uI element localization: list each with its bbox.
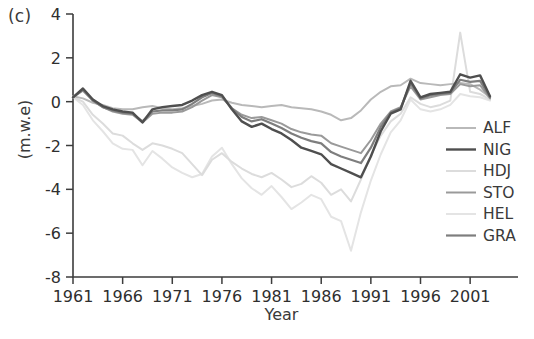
- x-tick-label: 1986: [301, 287, 342, 306]
- legend-label-gra: GRA: [483, 227, 516, 245]
- legend-label-hel: HEL: [483, 205, 513, 223]
- x-tick-label: 1976: [202, 287, 243, 306]
- line-chart: 420-2-4-6-819611966197119761981198619911…: [0, 0, 534, 339]
- figure-panel-c: (c) (m.w.e) Year 420-2-4-6-8196119661971…: [0, 0, 534, 339]
- x-tick-label: 1981: [251, 287, 292, 306]
- legend-label-hdj: HDJ: [483, 162, 511, 180]
- axes: 420-2-4-6-819611966197119761981198619911…: [45, 5, 518, 306]
- x-tick-label: 1991: [350, 287, 391, 306]
- y-tick-label: -4: [45, 180, 61, 199]
- x-tick-label: 2001: [450, 287, 491, 306]
- y-tick-label: 0: [51, 93, 61, 112]
- y-tick-label: -8: [45, 268, 61, 287]
- series-line-gra: [73, 80, 490, 163]
- y-tick-label: -6: [45, 224, 61, 243]
- legend: ALFNIGHDJSTOHELGRA: [446, 119, 516, 245]
- x-tick-label: 1961: [53, 287, 94, 306]
- x-tick-label: 1971: [152, 287, 193, 306]
- y-tick-label: -2: [45, 137, 61, 156]
- legend-label-alf: ALF: [483, 119, 511, 137]
- y-tick-label: 2: [51, 49, 61, 68]
- x-tick-label: 1996: [400, 287, 441, 306]
- series-line-nig: [73, 74, 490, 177]
- y-tick-label: 4: [51, 5, 61, 24]
- x-tick-label: 1966: [102, 287, 143, 306]
- legend-label-sto: STO: [483, 184, 515, 202]
- legend-label-nig: NIG: [483, 141, 511, 159]
- series-lines: [73, 33, 490, 251]
